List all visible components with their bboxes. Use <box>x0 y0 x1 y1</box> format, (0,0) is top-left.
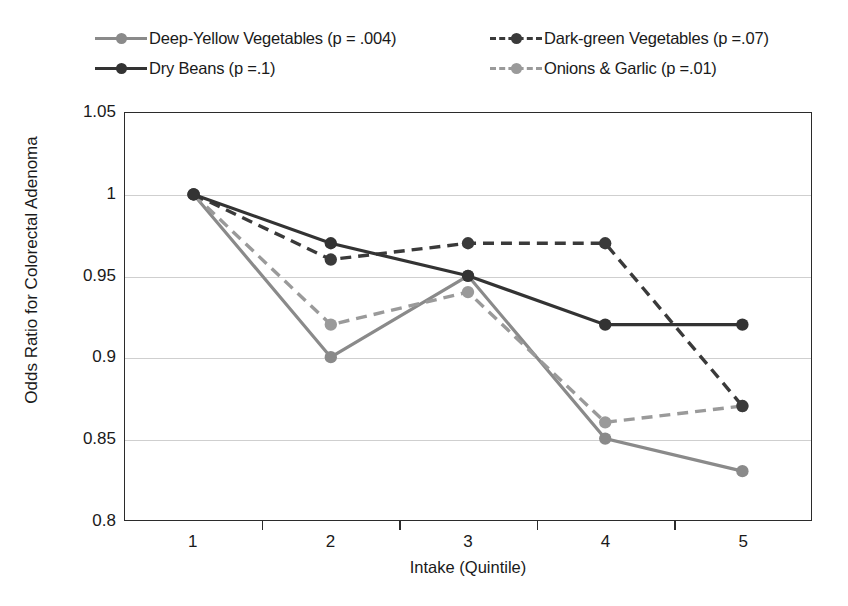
y-axis-title: Odds Ratio for Colorectal Adenoma <box>22 90 42 450</box>
y-axis-tick-label: 0.9 <box>46 348 116 365</box>
legend-row-1-col-2: Dark-green Vegetables (p =.07) <box>490 24 769 52</box>
plot-area <box>124 112 812 521</box>
chart-legend: Deep-Yellow Vegetables (p = .004) Dark-g… <box>95 22 840 84</box>
legend-item-deep-yellow-vegetables[interactable]: Deep-Yellow Vegetables (p = .004) <box>95 29 396 47</box>
legend-marker-swatch <box>116 33 127 44</box>
y-axis-tick-labels: 0.80.850.90.9511.05 <box>42 112 116 521</box>
chart-figure: Deep-Yellow Vegetables (p = .004) Dark-g… <box>0 0 848 606</box>
data-point-marker <box>325 253 337 265</box>
series-line <box>194 194 743 324</box>
legend-key-onions-and-garlic <box>490 59 542 77</box>
legend-marker-swatch <box>511 63 522 74</box>
x-axis-tick-label: 1 <box>163 533 223 550</box>
series-line <box>194 194 743 471</box>
legend-label-dark-green-vegetables: Dark-green Vegetables (p =.07) <box>544 30 769 47</box>
x-axis-tick-mark <box>537 521 538 530</box>
data-point-marker <box>599 237 611 249</box>
data-point-marker <box>599 416 611 428</box>
data-point-marker <box>462 286 474 298</box>
legend-key-dry-beans <box>95 59 147 77</box>
y-axis-tick-label: 0.8 <box>46 512 116 529</box>
x-axis-tick-mark <box>262 521 263 530</box>
data-point-marker <box>462 270 474 282</box>
legend-row-2: Dry Beans (p =.1) <box>95 54 275 82</box>
data-point-marker <box>187 188 199 200</box>
legend-label-dry-beans: Dry Beans (p =.1) <box>149 60 275 77</box>
legend-marker-swatch <box>116 63 127 74</box>
data-point-marker <box>736 465 748 477</box>
legend-row-2-col-2: Onions & Garlic (p =.01) <box>490 54 717 82</box>
legend-marker-swatch <box>511 33 522 44</box>
legend-key-dark-green-vegetables <box>490 29 542 47</box>
legend-item-onions-and-garlic[interactable]: Onions & Garlic (p =.01) <box>490 59 717 77</box>
legend-item-dry-beans[interactable]: Dry Beans (p =.1) <box>95 59 275 77</box>
legend-key-deep-yellow-vegetables <box>95 29 147 47</box>
x-axis-tick-label: 2 <box>300 533 360 550</box>
series-line <box>194 194 743 406</box>
y-axis-tick-label: 1 <box>46 185 116 202</box>
y-axis-tick-label: 1.05 <box>46 103 116 120</box>
x-axis-tick-label: 3 <box>438 533 498 550</box>
x-axis-tick-label: 4 <box>576 533 636 550</box>
data-point-marker <box>599 318 611 330</box>
x-axis-tick-labels: 12345 <box>124 521 812 557</box>
x-axis-title: Intake (Quintile) <box>124 558 812 577</box>
x-axis-tick-mark <box>674 521 675 530</box>
data-point-marker <box>325 351 337 363</box>
legend-label-deep-yellow-vegetables: Deep-Yellow Vegetables (p = .004) <box>149 30 396 47</box>
data-point-marker <box>599 432 611 444</box>
legend-label-onions-and-garlic: Onions & Garlic (p =.01) <box>544 60 717 77</box>
data-point-marker <box>325 318 337 330</box>
legend-item-dark-green-vegetables[interactable]: Dark-green Vegetables (p =.07) <box>490 29 769 47</box>
x-axis-tick-mark <box>399 521 400 530</box>
data-point-marker <box>325 237 337 249</box>
data-point-marker <box>462 237 474 249</box>
y-axis-tick-label: 0.95 <box>46 267 116 284</box>
data-point-marker <box>736 318 748 330</box>
series-layer <box>125 113 811 520</box>
data-point-marker <box>736 400 748 412</box>
y-axis-tick-label: 0.85 <box>46 430 116 447</box>
x-axis-tick-label: 5 <box>713 533 773 550</box>
legend-row-1: Deep-Yellow Vegetables (p = .004) <box>95 24 396 52</box>
